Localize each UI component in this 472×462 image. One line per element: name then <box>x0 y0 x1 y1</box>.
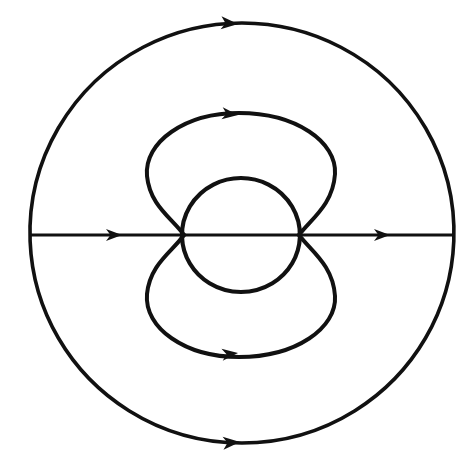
upper-lobe-streamline <box>147 113 335 235</box>
flow-diagram-svg <box>0 0 472 462</box>
figure-root <box>0 0 472 462</box>
outer-streamline-circle <box>30 23 454 443</box>
arrowhead-group <box>106 16 390 449</box>
lower-lobe-streamline <box>147 235 335 357</box>
